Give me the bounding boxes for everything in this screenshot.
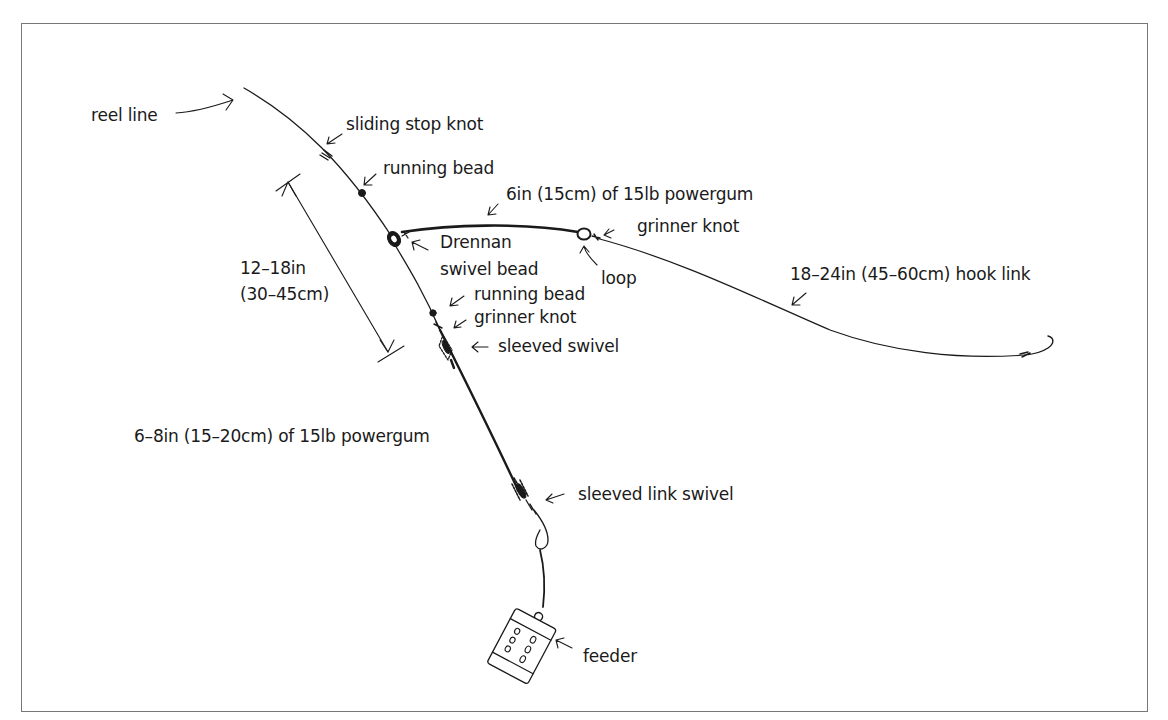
feeder: [487, 602, 560, 685]
reel-line: [244, 88, 392, 237]
running-bead-lower-arrow: [450, 296, 464, 306]
stop-knot: [320, 150, 332, 160]
label-powergum-top: 6in (15cm) of 15lb powergum: [506, 184, 753, 204]
hook: [1020, 336, 1053, 357]
label-running-bead-lower: running bead: [474, 284, 585, 304]
label-sleeved-link-swivel: sleeved link swivel: [578, 484, 734, 504]
hook-link-arrow: [792, 293, 806, 305]
running-bead-lower: [430, 310, 436, 316]
loop: [578, 229, 591, 240]
label-hook-link: 18–24in (45–60cm) hook link: [790, 264, 1031, 284]
label-drennan-line1: Drennan: [440, 232, 512, 252]
label-reel-line: reel line: [91, 105, 158, 125]
label-drennan-line2: swivel bead: [440, 259, 538, 279]
running-bead-arrow: [364, 174, 376, 185]
feeder-link-line: [540, 550, 544, 607]
label-sleeved-swivel: sleeved swivel: [498, 336, 619, 356]
stop-knot-arrow: [327, 134, 342, 144]
label-grinner-knot-lower: grinner knot: [474, 307, 576, 327]
label-running-bead-top: running bead: [383, 158, 494, 178]
grinner-top-arrow: [604, 229, 614, 238]
feeder-arrow: [556, 638, 572, 648]
grinner-knot-lower: [434, 322, 442, 330]
sleeved-swivel: [439, 335, 454, 368]
label-length-line2: (30–45cm): [240, 284, 329, 304]
rig-drawing: [0, 0, 1168, 720]
dimension-top-tick: [276, 174, 300, 196]
sleeved-link-arrow: [546, 494, 564, 503]
label-powergum-lower: 6–8in (15–20cm) of 15lb powergum: [134, 426, 430, 446]
reel-line-arrow: [176, 94, 233, 113]
sleeved-link-swivel: [512, 478, 548, 549]
powergum-top-arrow: [488, 204, 498, 215]
grinner-lower-arrow: [454, 320, 466, 328]
label-feeder: feeder: [583, 646, 637, 666]
sleeved-swivel-arrow: [472, 342, 488, 352]
label-sliding-stop-knot: sliding stop knot: [346, 114, 483, 134]
loop-arrow: [580, 246, 597, 265]
running-bead: [359, 190, 366, 197]
label-length-line1: 12–18in: [240, 258, 306, 278]
main-line-lower: [395, 245, 440, 330]
dimension-bottom-tick: [378, 340, 404, 362]
label-grinner-knot-top: grinner knot: [637, 216, 739, 236]
label-loop: loop: [601, 268, 637, 288]
drennan-arrow: [412, 240, 428, 250]
hook-link-line: [596, 238, 1025, 356]
